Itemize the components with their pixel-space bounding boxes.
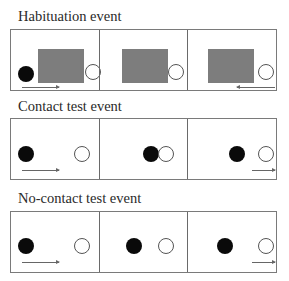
arrow-right-icon <box>22 87 59 88</box>
black-ball <box>18 66 34 82</box>
black-ball <box>217 238 233 254</box>
habituation-panel-1 <box>11 30 99 90</box>
arrow-right-icon <box>22 170 59 171</box>
arrow-left-icon <box>237 87 275 88</box>
black-ball <box>126 238 142 254</box>
black-ball <box>18 146 34 162</box>
arrow-right-icon <box>252 262 275 263</box>
contact-test-title: Contact test event <box>18 98 122 114</box>
no-contact-panel-1 <box>11 212 99 272</box>
occluding-screen <box>38 49 84 83</box>
white-ball <box>74 146 90 162</box>
contact-panel-1 <box>11 119 99 179</box>
white-ball <box>258 238 274 254</box>
contact-panel-3 <box>187 119 276 179</box>
black-ball <box>143 146 159 162</box>
white-ball <box>168 64 184 80</box>
arrow-right-icon <box>22 262 59 263</box>
black-ball <box>18 238 34 254</box>
white-ball <box>158 146 174 162</box>
habituation-panel-2 <box>99 30 188 90</box>
white-ball <box>74 238 90 254</box>
white-ball <box>258 64 274 80</box>
contact-panel-2 <box>99 119 188 179</box>
white-ball <box>158 238 174 254</box>
occluding-screen <box>122 49 168 83</box>
no-contact-test-title: No-contact test event <box>18 190 141 206</box>
no-contact-test-strip <box>10 211 277 273</box>
habituation-strip <box>10 29 277 91</box>
arrow-right-icon <box>252 170 275 171</box>
habituation-title: Habituation event <box>18 8 121 24</box>
black-ball <box>229 146 245 162</box>
occluding-screen <box>208 49 254 83</box>
contact-test-strip <box>10 118 277 180</box>
white-ball <box>258 146 274 162</box>
no-contact-panel-2 <box>99 212 188 272</box>
no-contact-panel-3 <box>187 212 276 272</box>
habituation-panel-3 <box>187 30 276 90</box>
